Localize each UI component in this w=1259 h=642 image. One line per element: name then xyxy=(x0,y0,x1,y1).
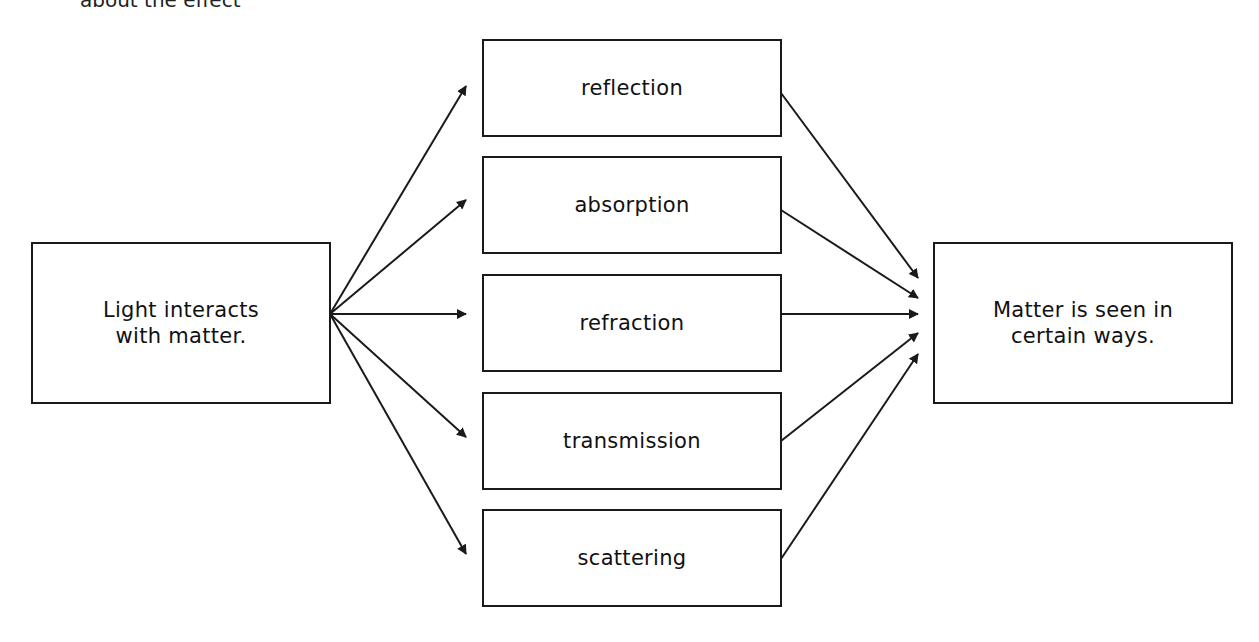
interaction-label: absorption xyxy=(574,192,689,218)
arrow-source-to-reflection xyxy=(330,86,466,314)
arrow-source-to-absorption xyxy=(330,200,466,314)
interaction-box-transmission: transmission xyxy=(482,392,782,490)
arrow-source-to-transmission xyxy=(330,314,466,437)
arrow-transmission-to-result xyxy=(781,333,918,441)
result-box: Matter is seen in certain ways. xyxy=(933,242,1233,404)
interaction-label: transmission xyxy=(563,428,701,454)
result-box-label: Matter is seen in certain ways. xyxy=(993,297,1173,350)
source-box: Light interacts with matter. xyxy=(31,242,331,404)
interaction-box-scattering: scattering xyxy=(482,509,782,607)
arrow-absorption-to-result xyxy=(781,210,918,298)
interaction-label: reflection xyxy=(581,75,683,101)
interaction-label: scattering xyxy=(578,545,687,571)
arrow-reflection-to-result xyxy=(781,93,918,278)
source-box-label: Light interacts with matter. xyxy=(103,297,259,350)
arrow-scattering-to-result xyxy=(781,354,918,559)
arrow-source-to-scattering xyxy=(330,314,466,554)
interaction-box-absorption: absorption xyxy=(482,156,782,254)
interaction-box-refraction: refraction xyxy=(482,274,782,372)
interaction-label: refraction xyxy=(580,310,685,336)
interaction-box-reflection: reflection xyxy=(482,39,782,137)
